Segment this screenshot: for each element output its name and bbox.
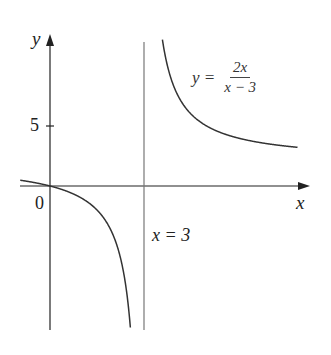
- equation-numerator: 2x: [230, 60, 250, 78]
- equation-fraction: 2x x − 3: [221, 60, 259, 95]
- function-equation: y = 2x x − 3: [192, 60, 259, 95]
- asymptote-label-text: x = 3: [152, 225, 190, 245]
- y-tick-label-5: 5: [30, 115, 39, 136]
- equation-lhs: y =: [192, 68, 215, 88]
- graph-canvas: [0, 0, 331, 355]
- asymptote-label: x = 3: [152, 225, 190, 246]
- x-axis-label: x: [296, 192, 304, 214]
- y-axis-label: y: [32, 28, 40, 50]
- origin-label: 0: [35, 193, 44, 214]
- equation-denominator: x − 3: [221, 78, 259, 95]
- x-axis-arrow-icon: [298, 182, 310, 190]
- y-axis-arrow-icon: [46, 34, 54, 46]
